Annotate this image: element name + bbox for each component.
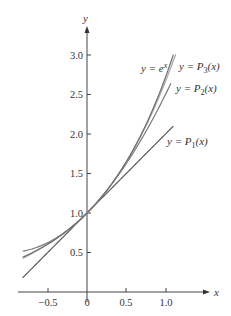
label-p2-main: y = xyxy=(175,82,194,94)
curve-labels: y = ex y = P3(x) y = P2(x) y = P1(x) xyxy=(140,60,220,150)
curve-exp xyxy=(23,55,174,258)
x-axis-label: x xyxy=(213,286,219,298)
label-p2-tail: (x) xyxy=(205,82,218,95)
curves xyxy=(23,54,176,277)
y-tick-label: 2.0 xyxy=(70,129,83,140)
label-p3-tail: (x) xyxy=(208,60,221,73)
x-tick-label: 0 xyxy=(84,297,89,308)
label-p3: y = P3(x) xyxy=(178,60,220,75)
label-exp-sup: x xyxy=(163,61,168,70)
y-tick-label: 3.0 xyxy=(70,50,83,61)
taylor-approximation-chart: x y −0.5 0 0.5 1.0 0.5 1.0 1.5 2.0 2.5 3… xyxy=(0,0,231,316)
label-p1-main: y = xyxy=(166,135,185,147)
label-p2: y = P2(x) xyxy=(175,82,217,97)
y-tick-label: 0.5 xyxy=(70,247,83,258)
x-axis-arrow-icon xyxy=(203,290,210,295)
x-tick-label: 0.5 xyxy=(119,297,132,308)
curve-p2 xyxy=(23,83,171,251)
curve-p3 xyxy=(23,54,176,258)
y-axis-arrow-icon xyxy=(85,26,90,33)
label-p1: y = P1(x) xyxy=(166,135,208,150)
y-tick-label: 2.5 xyxy=(70,89,83,100)
label-exp: y = ex xyxy=(140,61,168,74)
x-tick-label: 1.0 xyxy=(159,297,172,308)
label-p1-tail: (x) xyxy=(196,135,209,148)
y-tick-label: 1.5 xyxy=(70,168,83,179)
x-tick-label: −0.5 xyxy=(38,297,57,308)
x-ticks: −0.5 0 0.5 1.0 xyxy=(38,288,172,308)
y-axis-label: y xyxy=(82,12,88,24)
axes: x y xyxy=(18,12,219,302)
label-exp-main: y = e xyxy=(140,62,164,74)
y-tick-label: 1.0 xyxy=(70,208,83,219)
label-p3-main: y = xyxy=(178,60,197,72)
